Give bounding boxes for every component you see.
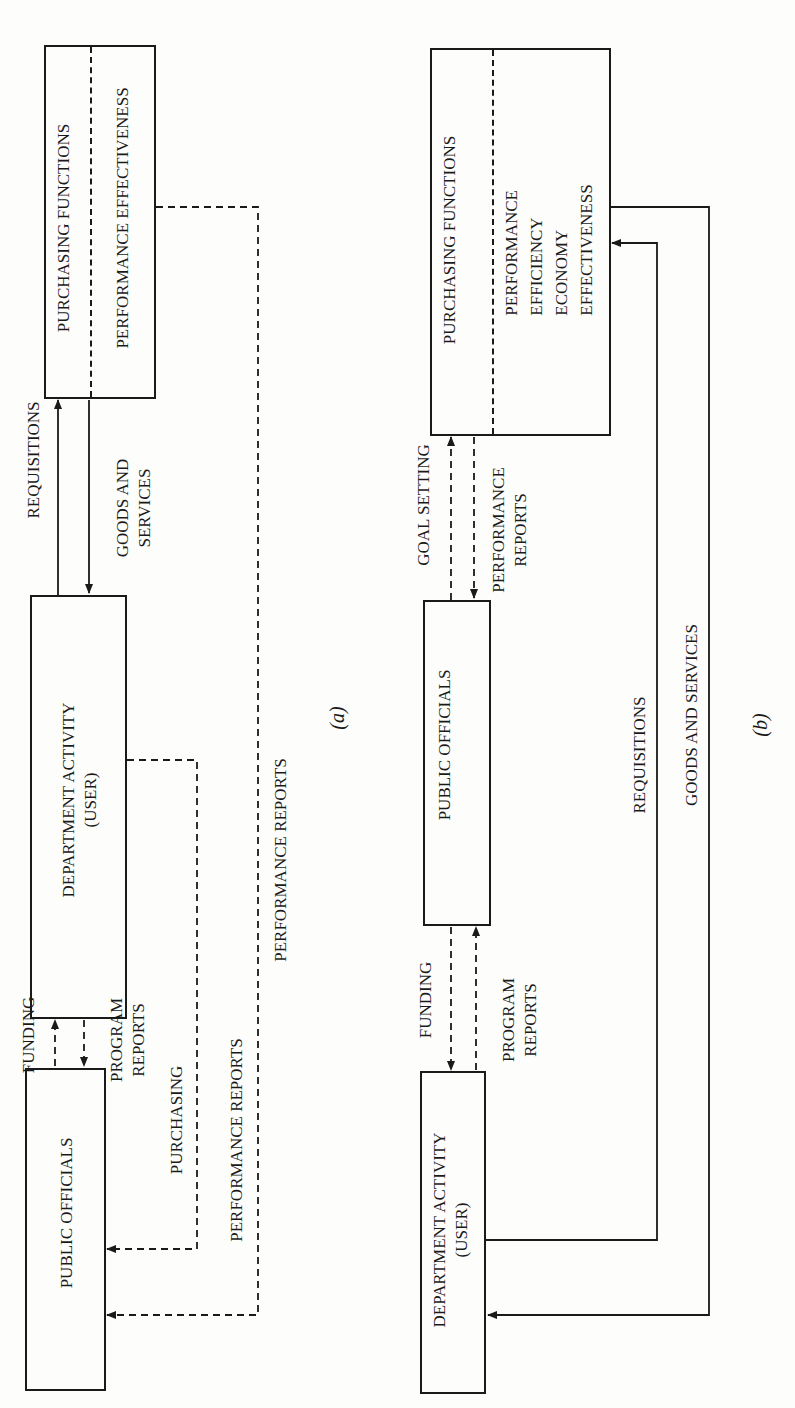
criterion-performance: PERFORMANCE [499,184,524,315]
box-divider [90,47,92,397]
goods-line2: SERVICES [134,459,156,558]
program-reports-label-b: PROGRAM REPORTS [498,978,542,1062]
goods-and-services-label-b: GOODS AND SERVICES [681,624,703,806]
purchasing-label-a: PURCHASING [166,1066,188,1175]
program-line2: REPORTS [128,998,150,1082]
requisitions-label-a: REQUISITIONS [23,401,45,518]
performance-reports-label-a-2: PERFORMANCE REPORTS [270,758,292,962]
program-line1: PROGRAM [106,998,128,1082]
performance-reports-label-a-1: PERFORMANCE REPORTS [226,1038,248,1242]
criterion-economy: ECONOMY [549,184,574,315]
department-activity-line2: (USER) [80,703,102,898]
funding-label-b: FUNDING [415,962,437,1039]
department-activity-label-a: DEPARTMENT ACTIVITY (USER) [58,703,102,898]
goal-setting-label-b: GOAL SETTING [413,444,435,566]
criterion-efficiency: EFFICIENCY [524,184,549,315]
criterion-effectiveness: EFFECTIVENESS [574,184,599,315]
caption-a: (a) [326,706,348,729]
purchasing-functions-title-b: PURCHASING FUNCTIONS [439,136,461,344]
department-activity-line1: DEPARTMENT ACTIVITY [429,1133,451,1328]
caption-b: (b) [749,713,771,736]
program-line2: REPORTS [520,978,542,1062]
performance-effectiveness-label-a: PERFORMANCE EFFECTIVENESS [112,87,134,348]
public-officials-label-b: PUBLIC OFFICIALS [434,670,456,821]
program-line1: PROGRAM [498,978,520,1062]
department-activity-line2: (USER) [451,1133,473,1328]
goods-services-label-a: GOODS AND SERVICES [112,459,156,558]
department-activity-line1: DEPARTMENT ACTIVITY [58,703,80,898]
diagram-canvas: PURCHASING FUNCTIONS PERFORMANCE EFFECTI… [0,0,795,1408]
box-divider [492,50,494,434]
public-officials-label-a: PUBLIC OFFICIALS [56,1138,78,1289]
funding-label-a: FUNDING [18,997,40,1074]
program-reports-label-a: PROGRAM REPORTS [106,998,150,1082]
department-activity-label-b: DEPARTMENT ACTIVITY (USER) [429,1133,473,1328]
performance-reports-label-b: PERFORMANCE REPORTS [488,467,532,593]
purchasing-functions-title-a: PURCHASING FUNCTIONS [53,124,75,332]
performance-criteria-list-b: PERFORMANCE EFFICIENCY ECONOMY EFFECTIVE… [499,184,599,315]
perf-line2: REPORTS [510,467,532,593]
perf-line1: PERFORMANCE [488,467,510,593]
goods-line1: GOODS AND [112,459,134,558]
requisitions-label-b: REQUISITIONS [629,696,651,813]
